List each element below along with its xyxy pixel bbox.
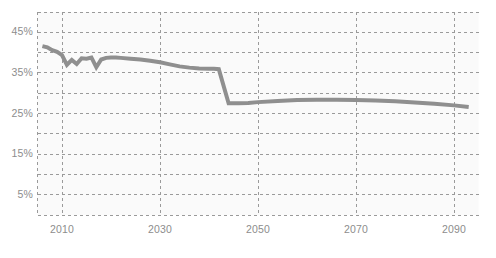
x-tick-label: 2070 [344, 224, 368, 235]
x-axis-tick-labels: 20102030205020702090 [0, 0, 496, 258]
x-tick-label: 2090 [442, 224, 466, 235]
x-tick-label: 2050 [246, 224, 270, 235]
line-chart: 45%35%25%15%5% 20102030205020702090 [0, 0, 496, 258]
x-tick-label: 2030 [148, 224, 172, 235]
x-tick-label: 2010 [50, 224, 74, 235]
